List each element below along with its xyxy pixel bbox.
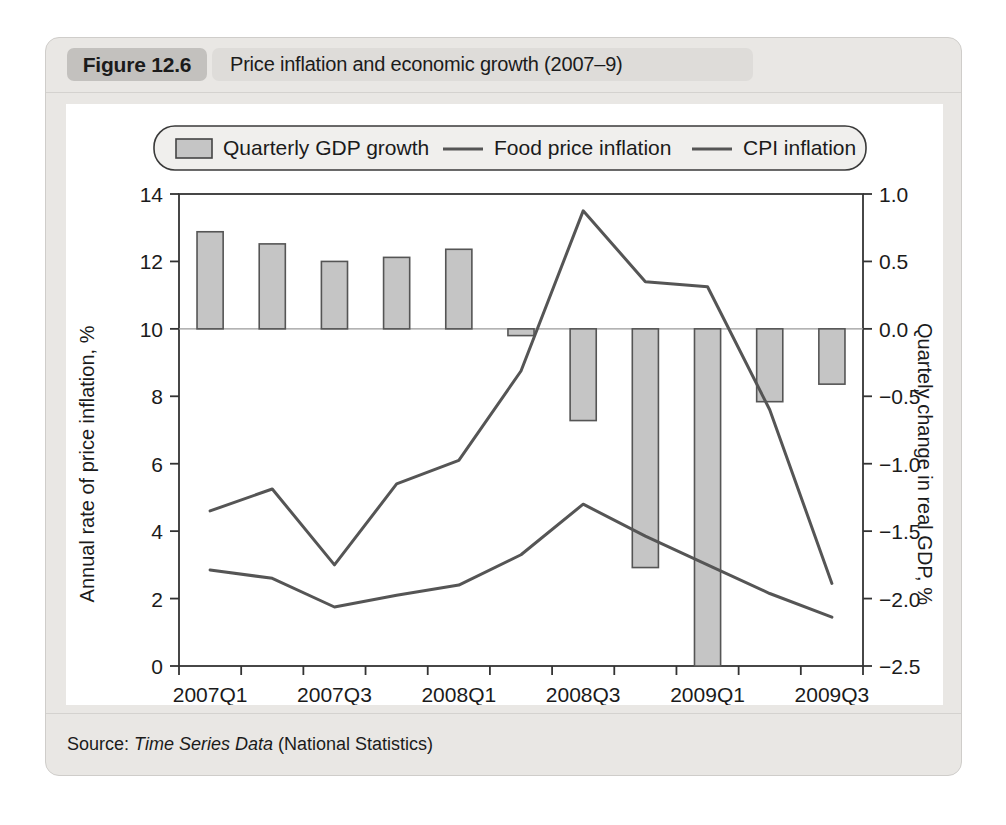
figure-footer: Source: Time Series Data (National Stati…	[46, 713, 961, 775]
figure-number-badge: Figure 12.6	[67, 48, 207, 81]
x-axis-tick-label: 2007Q1	[173, 683, 248, 705]
source-title: Time Series Data	[134, 734, 273, 754]
source-line: Source: Time Series Data (National Stati…	[67, 734, 433, 755]
y2-axis-tick-label: −1.0	[879, 453, 920, 476]
plot-group: 02468101214−2.5−2.0−1.5−1.0−0.50.00.51.0…	[140, 183, 921, 705]
x-axis-tick-label: 2008Q1	[421, 683, 496, 705]
y-axis-title: Annual rate of price inflation, %	[76, 325, 98, 602]
y-axis-tick-label: 6	[151, 453, 163, 476]
bar-quarterly-gdp-growth	[508, 329, 534, 336]
y-axis-tick-label: 12	[140, 250, 163, 273]
chart-plot-area: Quarterly GDP growth Food price inflatio…	[66, 104, 943, 705]
y-axis-tick-label: 4	[151, 520, 163, 543]
y-axis-tick-label: 10	[140, 318, 163, 341]
legend-label-gdp: Quarterly GDP growth	[223, 136, 429, 159]
y2-axis-tick-label: 1.0	[879, 183, 908, 206]
y2-axis-tick-label: −2.5	[879, 655, 920, 678]
chart-svg: Quarterly GDP growth Food price inflatio…	[66, 104, 943, 705]
legend-swatch-gdp	[176, 139, 212, 158]
y2-axis-tick-label: −1.5	[879, 520, 920, 543]
legend-label-food: Food price inflation	[494, 136, 671, 159]
legend-label-cpi: CPI inflation	[743, 136, 856, 159]
bar-quarterly-gdp-growth	[259, 244, 285, 329]
x-axis-tick-label: 2007Q3	[297, 683, 372, 705]
figure-card: Figure 12.6 Price inflation and economic…	[45, 37, 962, 776]
source-suffix: (National Statistics)	[273, 734, 433, 754]
bar-quarterly-gdp-growth	[819, 329, 845, 384]
y-axis-tick-label: 14	[140, 183, 164, 206]
x-axis-tick-label: 2009Q3	[795, 683, 870, 705]
figure-header: Figure 12.6 Price inflation and economic…	[46, 38, 961, 93]
x-axis-tick-label: 2008Q3	[546, 683, 621, 705]
bar-quarterly-gdp-growth	[384, 257, 410, 328]
y2-axis-tick-label: 0.0	[879, 318, 908, 341]
figure-title: Price inflation and economic growth (200…	[212, 48, 753, 81]
bar-quarterly-gdp-growth	[446, 249, 472, 329]
bar-quarterly-gdp-growth	[694, 329, 720, 666]
y-axis-tick-label: 2	[151, 588, 163, 611]
bar-quarterly-gdp-growth	[570, 329, 596, 421]
chart-legend: Quarterly GDP growth Food price inflatio…	[154, 126, 866, 170]
y2-axis-tick-label: −0.5	[879, 385, 920, 408]
x-axis-tick-label: 2009Q1	[670, 683, 745, 705]
y-axis-tick-label: 8	[151, 385, 163, 408]
y-axis-tick-label: 0	[151, 655, 163, 678]
y2-axis-tick-label: 0.5	[879, 250, 908, 273]
bar-quarterly-gdp-growth	[197, 232, 223, 329]
page-root: Figure 12.6 Price inflation and economic…	[0, 0, 1006, 825]
bar-quarterly-gdp-growth	[321, 261, 347, 328]
y2-axis-tick-label: −2.0	[879, 588, 920, 611]
source-prefix: Source:	[67, 734, 134, 754]
